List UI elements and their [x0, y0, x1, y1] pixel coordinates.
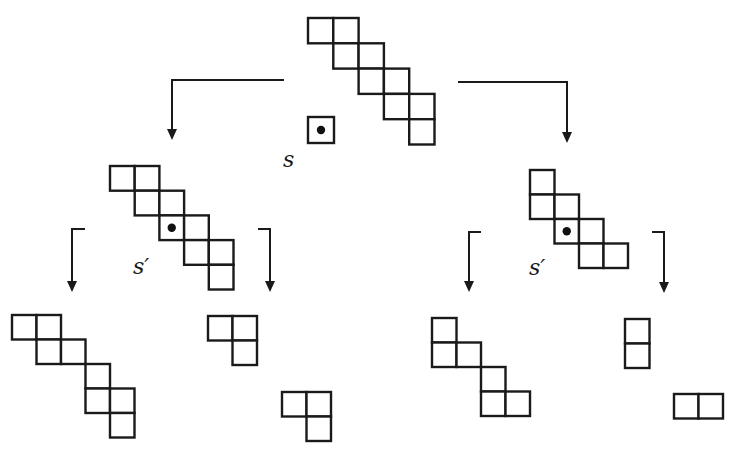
grid-cell — [333, 18, 358, 43]
right-child-shape — [530, 170, 628, 268]
right-right-result-b — [674, 394, 723, 419]
arrow-head-icon — [265, 281, 275, 292]
grid-cell — [208, 316, 233, 341]
arrow-head-icon — [67, 281, 77, 292]
grid-cell — [625, 344, 650, 369]
grid-cell — [233, 341, 258, 366]
grid-cell — [307, 417, 332, 442]
grid-cell — [359, 69, 384, 94]
arrow-head-icon — [659, 282, 669, 293]
grid-cell — [12, 315, 37, 340]
grid-cell — [86, 364, 111, 389]
grid-cell — [308, 18, 333, 43]
right-right-result-a — [625, 319, 650, 368]
grid-cell — [409, 119, 434, 144]
arrow-root-to-left — [167, 80, 284, 140]
grid-cell — [110, 389, 135, 414]
grid-cell — [86, 389, 111, 414]
grid-cell — [209, 265, 234, 290]
grid-cell — [481, 367, 506, 392]
grid-cell — [384, 94, 409, 119]
grid-cell — [209, 240, 234, 265]
left-right-result-a — [208, 316, 257, 365]
arrow-right-to-left — [464, 232, 481, 292]
marker-dot-icon — [563, 227, 571, 235]
marker-dot-icon — [168, 224, 176, 232]
label-s-prime-left: s′ — [133, 254, 149, 279]
grid-cell — [110, 413, 135, 438]
left-child-shape — [110, 166, 234, 290]
arrow-root-to-right — [458, 82, 572, 143]
grid-cell — [37, 315, 62, 340]
grid-cell — [457, 343, 482, 368]
arrow-left-to-left — [67, 229, 85, 292]
grid-cell — [110, 166, 135, 191]
grid-cell — [307, 392, 332, 417]
left-right-result-b — [282, 392, 331, 441]
shapes-layer — [12, 18, 723, 441]
arrow-right-to-right — [652, 232, 669, 293]
grid-cell — [135, 191, 160, 216]
arrow-left-to-right — [258, 229, 275, 292]
grid-cell — [409, 94, 434, 119]
grid-cell — [506, 392, 531, 417]
grid-cell — [135, 166, 160, 191]
grid-cell — [699, 394, 724, 419]
grid-cell — [333, 43, 358, 68]
grid-cell — [384, 69, 409, 94]
grid-cell — [184, 215, 209, 240]
grid-cell — [432, 343, 457, 368]
grid-cell — [61, 340, 86, 365]
right-left-result — [432, 318, 530, 416]
marked-cell-s — [308, 117, 334, 143]
arrow-head-icon — [167, 129, 177, 140]
grid-cell — [674, 394, 699, 419]
left-left-result — [12, 315, 135, 438]
grid-cell — [233, 316, 258, 341]
grid-cell — [625, 319, 650, 344]
grid-cell — [555, 195, 580, 220]
grid-cell — [159, 191, 184, 216]
grid-cell — [579, 244, 604, 269]
grid-cell — [530, 195, 555, 220]
marker-dot-icon — [317, 126, 325, 134]
arrow-head-icon — [464, 281, 474, 292]
grid-cell — [282, 392, 307, 417]
grid-cell — [37, 340, 62, 365]
ribbon-decomposition-diagram: s s′ s′ — [0, 0, 736, 453]
grid-cell — [579, 219, 604, 244]
grid-cell — [184, 240, 209, 265]
label-s: s — [283, 147, 294, 172]
grid-cell — [530, 170, 555, 195]
grid-cell — [481, 392, 506, 417]
grid-cell — [432, 318, 457, 343]
label-s-prime-right: s′ — [529, 255, 545, 280]
arrow-head-icon — [562, 132, 572, 143]
grid-cell — [359, 43, 384, 68]
grid-cell — [604, 244, 629, 269]
